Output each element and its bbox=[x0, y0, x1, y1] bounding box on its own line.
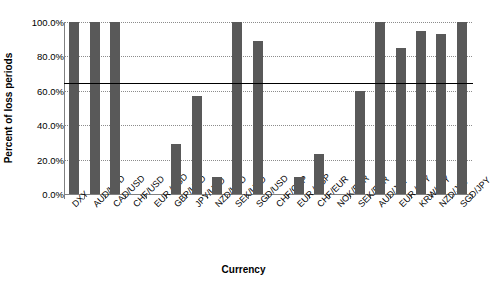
y-tick-mark bbox=[58, 160, 63, 161]
bar bbox=[436, 34, 446, 194]
y-tick-label: 20.0% bbox=[6, 154, 64, 165]
y-tick-label: 40.0% bbox=[6, 120, 64, 131]
bar bbox=[396, 48, 406, 194]
bar bbox=[171, 144, 181, 194]
y-tick-mark bbox=[58, 194, 63, 195]
bar bbox=[416, 31, 426, 194]
bar bbox=[90, 22, 100, 194]
y-tick-mark bbox=[58, 125, 63, 126]
y-axis-ticks: 0.0%20.0%40.0%60.0%80.0%100.0% bbox=[0, 0, 64, 286]
plot-area bbox=[64, 22, 472, 194]
bar bbox=[253, 41, 263, 194]
reference-line bbox=[64, 83, 473, 84]
bar bbox=[110, 22, 120, 194]
x-axis-title: Currency bbox=[0, 264, 487, 275]
gridline bbox=[65, 160, 472, 161]
y-tick-mark bbox=[58, 22, 63, 23]
x-tick-mark bbox=[64, 194, 65, 199]
bar bbox=[232, 22, 242, 194]
bar bbox=[192, 96, 202, 194]
bar bbox=[294, 177, 304, 194]
y-tick-label: 0.0% bbox=[6, 189, 64, 200]
bar bbox=[375, 22, 385, 194]
y-tick-mark bbox=[58, 56, 63, 57]
bar bbox=[314, 154, 324, 194]
y-tick-label: 60.0% bbox=[6, 85, 64, 96]
gridline bbox=[65, 22, 472, 23]
bar bbox=[69, 22, 79, 194]
gridline bbox=[65, 56, 472, 57]
gridline bbox=[65, 91, 472, 92]
y-tick-mark bbox=[58, 91, 63, 92]
y-tick-label: 100.0% bbox=[6, 17, 64, 28]
y-tick-label: 80.0% bbox=[6, 51, 64, 62]
bar bbox=[355, 91, 365, 194]
bar bbox=[212, 177, 222, 194]
bar bbox=[457, 22, 467, 194]
gridline bbox=[65, 125, 472, 126]
